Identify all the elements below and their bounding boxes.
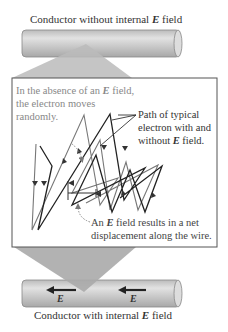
diagram-graphics <box>0 0 228 332</box>
field-label-left: E <box>57 293 64 304</box>
random-motion-label: In the absence of an E field, the electr… <box>16 84 134 123</box>
top-conductor-title: Conductor without internal E field <box>30 13 182 25</box>
field-label-right: E <box>130 293 137 304</box>
top-conductor-cylinder <box>22 30 182 57</box>
bottom-conductor-title: Conductor with internal E field <box>34 309 172 321</box>
path-label: Path of typical electron with and withou… <box>138 108 211 147</box>
bottom-conductor-cylinder <box>22 280 182 307</box>
net-displacement-label: An E field results in a net displacement… <box>91 216 212 242</box>
